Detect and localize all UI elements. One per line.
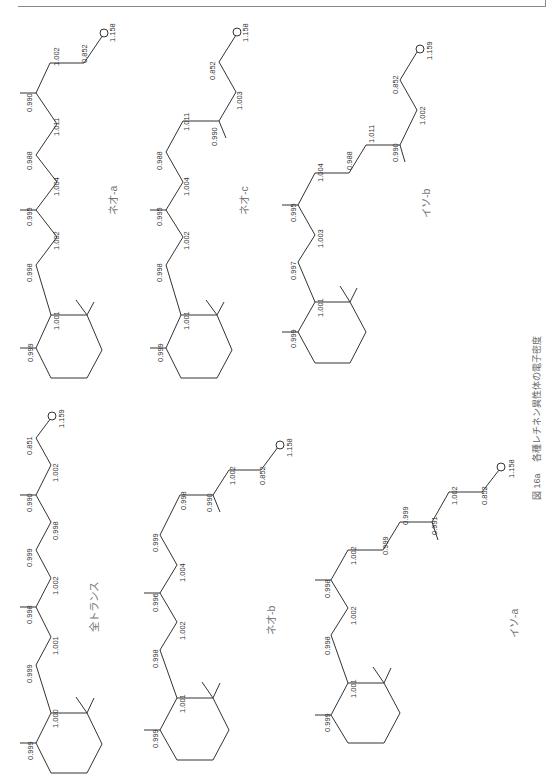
- molecule-iso-a: 0.999 1.001 0.998 1.002 0.998 1.002 0.99…: [315, 459, 520, 743]
- svg-text:0.988: 0.988: [155, 151, 164, 170]
- isomer-label-neo-b: ネオ-b: [265, 606, 277, 635]
- svg-text:1.158: 1.158: [507, 459, 516, 478]
- svg-text:1.001: 1.001: [316, 298, 325, 317]
- svg-text:0.999: 0.999: [323, 713, 332, 732]
- svg-text:0.999: 0.999: [151, 729, 160, 748]
- svg-text:1.002: 1.002: [450, 486, 459, 505]
- svg-text:0.999: 0.999: [401, 506, 410, 525]
- isomer-label-neo-c: ネオ-c: [238, 186, 250, 215]
- figure-caption-text: 各種レチネン異性体の電子密度: [531, 336, 542, 462]
- svg-text:0.999: 0.999: [25, 664, 34, 683]
- svg-text:1.001: 1.001: [349, 679, 358, 698]
- svg-text:0.990: 0.990: [210, 127, 219, 146]
- svg-text:0.990: 0.990: [205, 493, 214, 512]
- svg-text:0.852: 0.852: [258, 466, 267, 485]
- svg-text:1.158: 1.158: [241, 23, 250, 42]
- svg-text:0.852: 0.852: [480, 486, 489, 505]
- svg-text:0.995: 0.995: [289, 203, 298, 222]
- svg-text:1.002: 1.002: [418, 106, 427, 125]
- svg-text:0.998: 0.998: [323, 579, 332, 598]
- figure-caption: 図 16a 各種レチネン異性体の電子密度: [531, 336, 542, 500]
- svg-text:0.852: 0.852: [391, 75, 400, 94]
- svg-text:1.159: 1.159: [57, 409, 66, 428]
- svg-text:0.998: 0.998: [25, 263, 34, 282]
- svg-text:1.002: 1.002: [349, 606, 358, 625]
- isomer-label-iso-a: イソ-a: [508, 609, 520, 638]
- svg-text:1.002: 1.002: [178, 621, 187, 640]
- svg-text:0.851: 0.851: [25, 436, 34, 455]
- isomer-label-all-trans: 全トランス: [88, 582, 100, 632]
- isomer-label-iso-b: イソ-b: [420, 189, 432, 218]
- svg-text:0.998: 0.998: [51, 521, 60, 540]
- svg-text:1.002: 1.002: [52, 47, 61, 66]
- svg-text:1.011: 1.011: [182, 113, 191, 131]
- svg-text:1.002: 1.002: [52, 231, 61, 250]
- svg-text:1.000: 1.000: [51, 709, 60, 728]
- svg-text:1.159: 1.159: [425, 41, 434, 60]
- svg-text:0.990: 0.990: [25, 493, 34, 512]
- svg-text:1.004: 1.004: [178, 563, 187, 582]
- svg-text:1.002: 1.002: [51, 463, 60, 482]
- svg-text:0.999: 0.999: [151, 533, 160, 552]
- svg-text:1.004: 1.004: [316, 163, 325, 182]
- svg-text:0.999: 0.999: [289, 329, 298, 348]
- svg-text:1.001: 1.001: [52, 311, 61, 330]
- molecule-neo-b: 0.999 1.001 0.998 1.002 0.996 1.004 0.99…: [144, 438, 294, 760]
- molecule-iso-b: 0.999 1.001 0.997 1.003 0.995 1.004 0.98…: [282, 41, 434, 363]
- svg-text:1.001: 1.001: [182, 311, 191, 330]
- retinal-isomers-figure: 0.999 1.001 0.998 1.002 0.995 1.004 0.98…: [0, 0, 554, 776]
- svg-text:0.999: 0.999: [156, 343, 165, 362]
- svg-text:0.988: 0.988: [25, 151, 34, 170]
- svg-text:1.158: 1.158: [108, 23, 117, 42]
- svg-text:0.997: 0.997: [289, 261, 298, 280]
- svg-text:0.999: 0.999: [26, 343, 35, 362]
- isomer-label-neo-a: ネオ-a: [107, 186, 119, 215]
- svg-text:0.996: 0.996: [151, 593, 160, 612]
- svg-text:0.998: 0.998: [155, 263, 164, 282]
- svg-text:0.990: 0.990: [25, 93, 34, 112]
- svg-text:1.002: 1.002: [182, 231, 191, 250]
- svg-text:1.001: 1.001: [178, 694, 187, 713]
- svg-text:0.999: 0.999: [381, 536, 390, 555]
- svg-text:1.004: 1.004: [52, 177, 61, 196]
- molecule-neo-a: 0.999 1.001 0.998 1.002 0.995 1.004 0.98…: [20, 23, 119, 378]
- molecule-neo-c: 0.999 1.001 0.998 1.002 0.995 1.004 0.98…: [150, 23, 250, 378]
- svg-text:1.003: 1.003: [235, 91, 244, 110]
- molecule-all-trans: 0.999 1.000 0.999 1.001 0.998 1.002 0.99…: [20, 409, 102, 773]
- svg-text:1.004: 1.004: [182, 177, 191, 196]
- svg-text:0.998: 0.998: [25, 605, 34, 624]
- svg-text:1.003: 1.003: [316, 229, 325, 248]
- svg-text:0.999: 0.999: [25, 548, 34, 567]
- svg-text:0.990: 0.990: [391, 143, 400, 162]
- svg-text:0.852: 0.852: [80, 44, 89, 63]
- svg-text:0.999: 0.999: [26, 741, 35, 760]
- svg-text:0.991: 0.991: [430, 516, 439, 535]
- svg-text:0.852: 0.852: [208, 61, 217, 80]
- svg-text:0.998: 0.998: [151, 649, 160, 668]
- svg-text:0.988: 0.988: [345, 151, 354, 170]
- svg-text:0.998: 0.998: [179, 491, 188, 510]
- svg-text:0.995: 0.995: [25, 207, 34, 226]
- svg-text:1.158: 1.158: [285, 438, 294, 457]
- svg-text:1.001: 1.001: [51, 636, 60, 655]
- svg-text:1.002: 1.002: [51, 576, 60, 595]
- svg-text:1.002: 1.002: [349, 546, 358, 565]
- svg-text:1.011: 1.011: [52, 118, 61, 136]
- svg-text:0.998: 0.998: [323, 636, 332, 655]
- figure-number: 図 16a: [532, 473, 542, 500]
- svg-text:1.002: 1.002: [228, 466, 237, 485]
- svg-text:0.995: 0.995: [155, 207, 164, 226]
- svg-text:1.011: 1.011: [367, 125, 376, 143]
